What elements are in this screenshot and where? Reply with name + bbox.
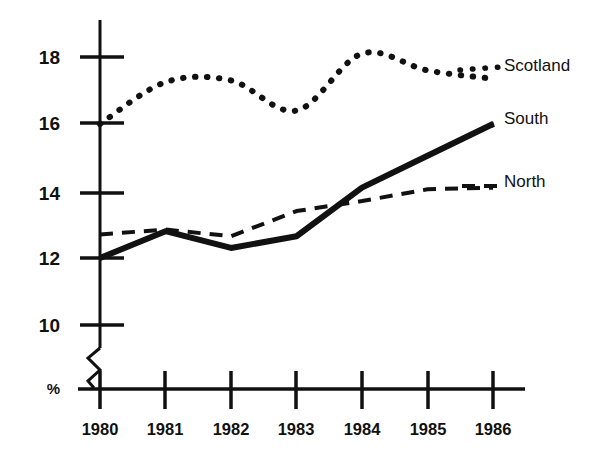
series-label-north: North	[504, 173, 546, 190]
y-axis-label-18: 18	[14, 48, 60, 67]
series-layer	[100, 52, 494, 258]
y-axis-break-icon	[88, 348, 100, 388]
y-axis-ticks	[80, 57, 124, 325]
legend-mark-south-icon	[491, 124, 494, 125]
series-label-south: South	[504, 110, 548, 127]
y-axis-label-12: 12	[14, 249, 60, 268]
series-line-north	[100, 188, 493, 237]
x-axis-label-1980: 1980	[82, 421, 119, 438]
x-axis-label-1986: 1986	[475, 421, 512, 438]
y-axis-label-16: 16	[14, 114, 60, 133]
x-axis-label-1985: 1985	[410, 421, 447, 438]
y-axis-unit-label: %	[14, 381, 60, 396]
x-axis-label-1983: 1983	[278, 421, 315, 438]
x-axis-label-1984: 1984	[344, 421, 381, 438]
y-axis-label-14: 14	[14, 184, 60, 203]
y-axis-label-10: 10	[14, 316, 60, 335]
series-line-scotland	[100, 52, 493, 124]
series-label-scotland: Scotland	[504, 57, 570, 74]
x-axis-label-1982: 1982	[213, 421, 250, 438]
x-axis-label-1981: 1981	[147, 421, 184, 438]
legend-mark-scotland-icon	[460, 67, 500, 70]
chart-container: 18 16 14 12 10 % 1980 1981 1982 1983 198…	[0, 0, 593, 470]
